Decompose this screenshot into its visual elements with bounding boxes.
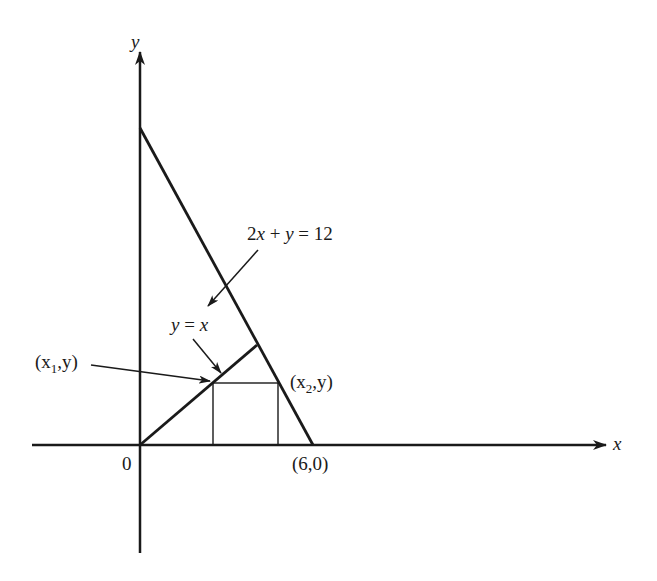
identity-pointer-arrow (193, 339, 221, 373)
identity-equation-label: y = x (169, 314, 209, 335)
eq-coef: 2 (247, 223, 257, 244)
eq2-equals: = (179, 314, 199, 335)
identity-line (140, 345, 257, 445)
x1-pointer-arrow (91, 365, 210, 381)
eq-plus: + (265, 223, 285, 244)
eq-rhs: = 12 (294, 223, 333, 244)
constraint-equation-label: 2x + y = 12 (247, 223, 333, 244)
x-axis-label: x (612, 433, 622, 454)
x1-pre: (x (35, 351, 51, 373)
intercept-label: (6,0) (292, 453, 328, 475)
eq2-var-x: x (199, 314, 209, 335)
x1-post: ,y) (57, 351, 78, 373)
constraint-line (140, 128, 313, 445)
inscribed-rectangle (213, 383, 278, 445)
x2-post: ,y) (312, 371, 333, 393)
x2-point-label: (x2,y) (290, 371, 333, 396)
origin-label: 0 (122, 453, 132, 474)
y-axis-label: y (129, 31, 140, 52)
eq-var-y: y (283, 223, 294, 244)
x2-pre: (x (290, 371, 306, 393)
x1-point-label: (x1,y) (35, 351, 78, 376)
diagram-canvas: y x 0 (6,0) 2x + y = 12 y = x (x1,y) (x2… (0, 0, 657, 581)
eq2-var-y: y (169, 314, 180, 335)
